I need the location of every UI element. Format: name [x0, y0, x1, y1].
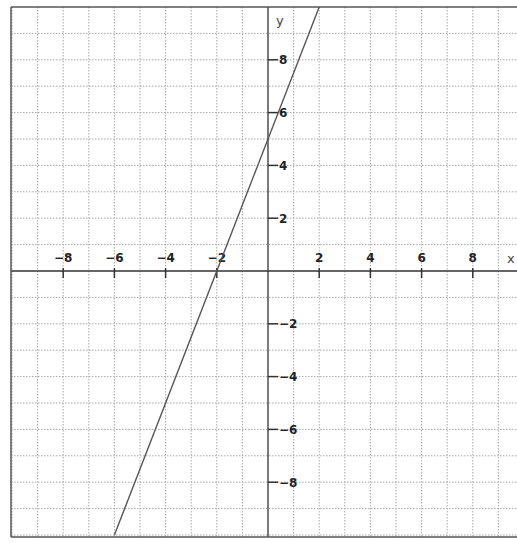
grid-lines [11, 7, 517, 537]
y-tick-label: 4 [279, 159, 287, 173]
x-tick-label: −6 [105, 251, 123, 265]
x-axis-label: x [507, 251, 515, 266]
x-tick-label: 6 [417, 251, 425, 265]
x-tick-label: 8 [469, 251, 477, 265]
coordinate-plane: −8−6−4−224688642−2−4−6−8 x y [0, 0, 517, 543]
x-tick-label: −4 [156, 251, 174, 265]
y-tick-label: 8 [279, 53, 287, 67]
y-tick-label: −6 [279, 423, 297, 437]
y-tick-label: −8 [279, 476, 297, 490]
y-tick-label: −2 [279, 317, 297, 331]
y-tick-label: −4 [279, 370, 297, 384]
y-axis-label: y [276, 13, 284, 28]
x-tick-label: 2 [315, 251, 323, 265]
y-tick-label: 2 [279, 212, 287, 226]
x-tick-label: 4 [366, 251, 374, 265]
x-tick-label: −8 [54, 251, 72, 265]
